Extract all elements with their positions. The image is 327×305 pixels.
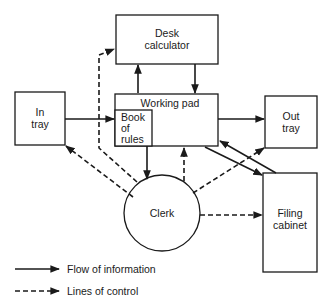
desk-calculator-node: Desk calculator [116, 15, 218, 64]
clerk-label: Clerk [150, 207, 175, 219]
legend: Flow of information Lines of control [15, 263, 156, 297]
in-tray-node: In tray [15, 92, 65, 145]
clerk-information-flow-diagram: Desk calculator In tray Working pad Book… [0, 0, 327, 305]
working-pad-label: Working pad [141, 97, 200, 109]
book-of-rules-node: Book of rules [115, 110, 152, 146]
filing-cabinet-label-1: Filing [277, 207, 302, 219]
out-tray-node: Out tray [265, 96, 317, 148]
in-tray-label-2: tray [31, 118, 49, 130]
clerk-node: Clerk [124, 175, 200, 251]
desk-calculator-label-1: Desk [155, 27, 180, 39]
filing-cabinet-node: Filing cabinet [263, 173, 317, 272]
book-of-rules-label-3: rules [121, 133, 144, 145]
out-tray-label-1: Out [283, 110, 300, 122]
legend-flow-of-information: Flow of information [67, 263, 156, 275]
in-tray-label-1: In [36, 106, 45, 118]
out-tray-label-2: tray [282, 122, 300, 134]
control-clerk-to-in-tray [66, 146, 133, 197]
desk-calculator-label-2: calculator [145, 39, 190, 51]
filing-cabinet-label-2: cabinet [273, 219, 307, 231]
legend-lines-of-control: Lines of control [67, 285, 138, 297]
